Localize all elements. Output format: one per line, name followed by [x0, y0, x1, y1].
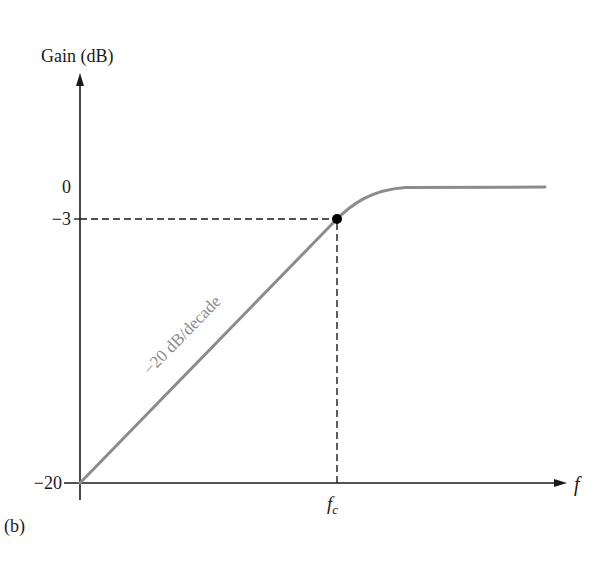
gain-plot: Gain (dB) 0 −3 −20 f fc −20 dB/decade (b…: [0, 0, 613, 565]
x-axis-title: f: [574, 473, 582, 496]
y-tick-label-0: 0: [62, 177, 71, 197]
y-tick-label-minus20: −20: [34, 473, 62, 493]
x-tick-label-fc: fc: [327, 493, 338, 517]
y-axis-arrow-icon: [76, 73, 84, 86]
y-tick-label-minus3: −3: [52, 209, 71, 229]
panel-label: (b): [4, 516, 25, 537]
fc-subscript: c: [332, 502, 338, 517]
gain-curve: [80, 187, 545, 483]
x-axis-arrow-icon: [554, 479, 567, 487]
cutoff-point-marker: [332, 214, 342, 224]
slope-annotation: −20 dB/decade: [139, 292, 224, 379]
y-axis-title: Gain (dB): [41, 46, 113, 67]
